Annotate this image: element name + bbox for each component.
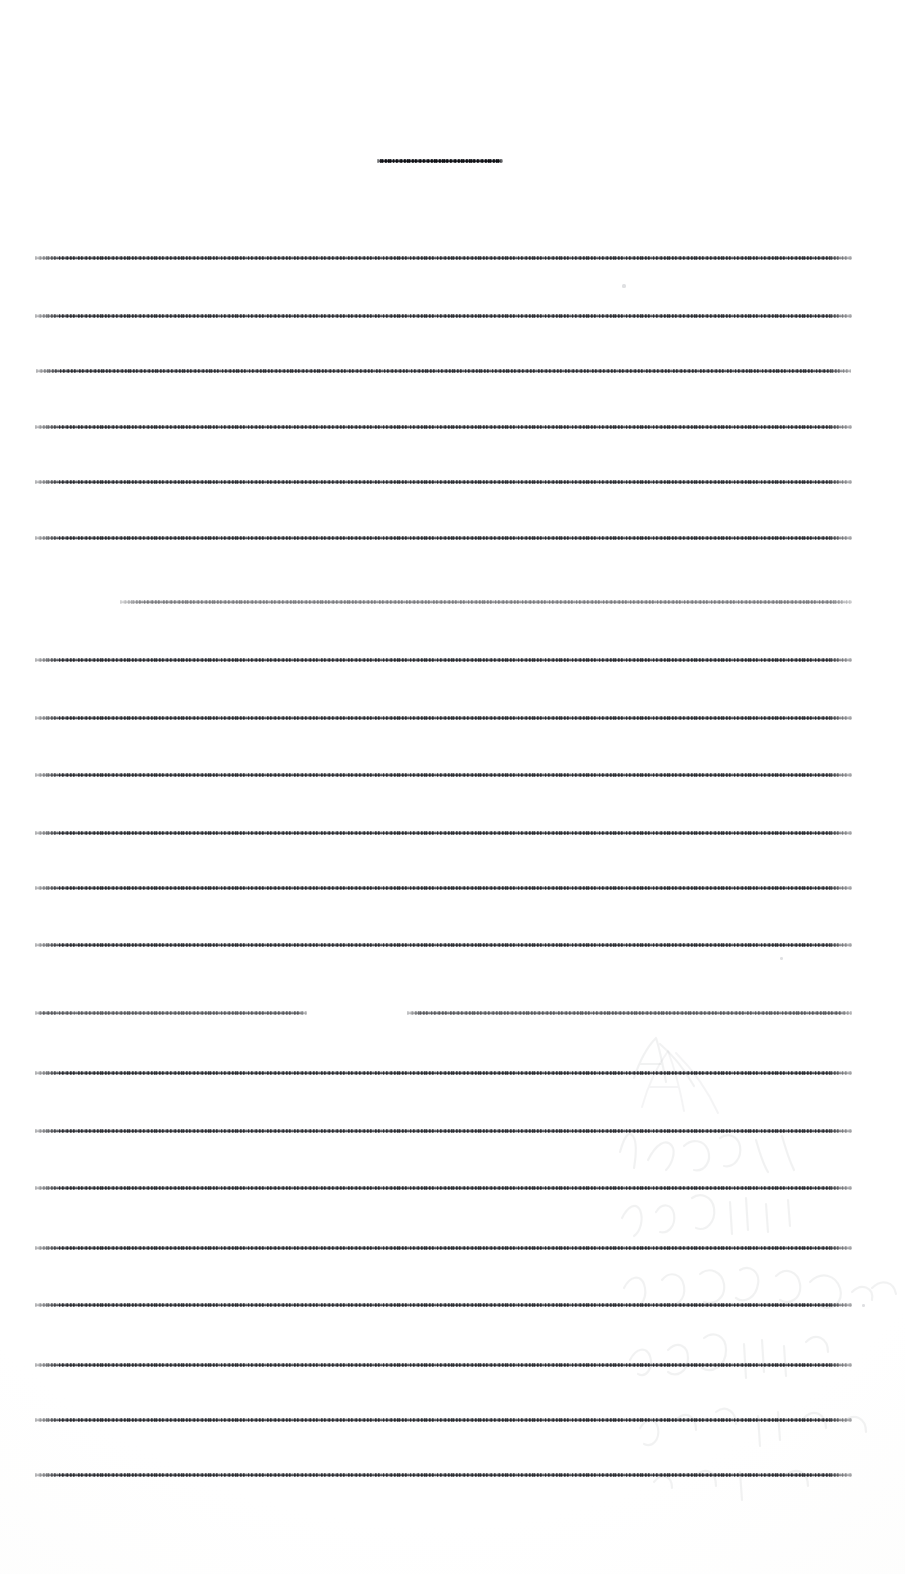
- text-line: [35, 1473, 852, 1477]
- text-line: [35, 1071, 852, 1075]
- text-line: [35, 773, 852, 777]
- text-line: [35, 1186, 852, 1190]
- text-line: [35, 536, 852, 540]
- text-line: [35, 1363, 852, 1367]
- text-line: [35, 1303, 852, 1307]
- document-title-line: [377, 159, 503, 163]
- text-line: [120, 600, 852, 604]
- text-line: [35, 480, 852, 484]
- text-line: [35, 425, 852, 429]
- text-line: [35, 658, 852, 662]
- text-line: [407, 1011, 852, 1015]
- text-line: [35, 716, 852, 720]
- text-line: [35, 1011, 307, 1015]
- text-line: [35, 1129, 852, 1133]
- text-line: [35, 943, 852, 947]
- text-line: [35, 886, 852, 890]
- bleed-through-ghost-marks-upper: [630, 1035, 830, 1125]
- paper-background: [0, 0, 905, 1574]
- text-line: [35, 1246, 852, 1250]
- bleed-through-ghost-marks: [600, 1020, 905, 1520]
- scan-speck: [862, 1304, 865, 1307]
- text-line: [35, 1418, 852, 1422]
- text-line: [35, 314, 852, 318]
- text-line: [36, 369, 851, 373]
- text-line: [35, 831, 852, 835]
- scanned-page: [0, 0, 905, 1574]
- text-line: [35, 256, 852, 260]
- scan-speck: [622, 284, 626, 288]
- scan-speck: [780, 957, 783, 960]
